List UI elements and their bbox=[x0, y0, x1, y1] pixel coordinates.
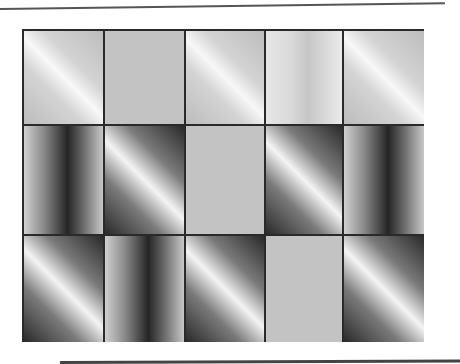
tile-r1-c3-diagonal-light bbox=[186, 31, 264, 124]
tile-r3-c2-vertical-dark bbox=[105, 236, 184, 342]
tile-r2-c3-flat-gray bbox=[186, 126, 264, 234]
tile-r3-c1-diagonal-dark bbox=[24, 236, 103, 342]
bottom-rule-line bbox=[60, 360, 460, 364]
tile-r3-c4-flat-gray bbox=[266, 236, 342, 342]
tile-r1-c1-diagonal-light bbox=[24, 31, 103, 124]
tile-r3-c5-diagonal-dark bbox=[344, 236, 424, 342]
tile-r2-c2-diagonal-dark bbox=[105, 126, 184, 234]
tile-r1-c4-vertical-light bbox=[266, 31, 342, 124]
tile-r2-c1-vertical-dark bbox=[24, 126, 103, 234]
top-rule-line bbox=[0, 2, 445, 10]
tile-r3-c3-diagonal-dark bbox=[186, 236, 264, 342]
gradient-tile-grid bbox=[22, 29, 424, 342]
tile-r1-c5-diagonal-light bbox=[344, 31, 424, 124]
tile-r2-c4-diagonal-dark bbox=[266, 126, 342, 234]
tile-r1-c2-flat-gray bbox=[105, 31, 184, 124]
tile-r2-c5-vertical-dark bbox=[344, 126, 424, 234]
